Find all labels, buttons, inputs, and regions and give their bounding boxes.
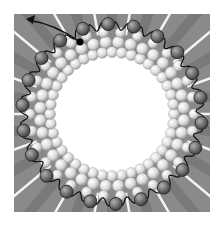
center-void bbox=[57, 59, 167, 169]
dot-marker bbox=[77, 39, 84, 46]
ring-diagram bbox=[0, 0, 223, 227]
